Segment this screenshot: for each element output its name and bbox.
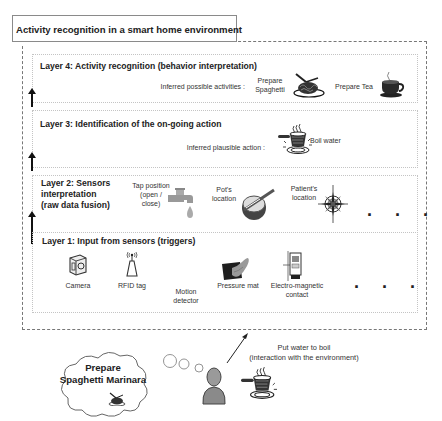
layer-1-more-ellipsis: . . . bbox=[354, 277, 424, 287]
rfid-tag-icon bbox=[124, 250, 140, 278]
layer-4-up-arrow bbox=[31, 93, 33, 107]
interaction-line: (interaction with the environment) bbox=[238, 353, 370, 363]
sensor-pressure-mat: Pressure mat bbox=[212, 281, 264, 290]
activity-prepare-tea: Prepare Tea bbox=[335, 82, 373, 91]
layer-4-title: Layer 4: Activity recognition (behavior … bbox=[40, 61, 257, 71]
layer-2-title-line: interpretation bbox=[41, 189, 110, 200]
interaction-text: Put water to boil (interaction with the … bbox=[238, 343, 370, 363]
label-line: Electro-magnetic bbox=[264, 281, 330, 290]
sensor-motion-detector: Motion detector bbox=[166, 287, 206, 305]
layer-3-title: Layer 3: Identification of the on-going … bbox=[40, 119, 221, 129]
diagram-title: Activity recognition in a smart home env… bbox=[12, 15, 237, 42]
label-line: detector bbox=[166, 296, 206, 305]
activity-label-line: Prepare bbox=[248, 76, 292, 85]
boiling-pot-small-icon bbox=[241, 366, 277, 400]
sensor-pot-location: Pot's location bbox=[206, 185, 242, 203]
layer-2-title: Layer 2: Sensors interpretation (raw dat… bbox=[41, 178, 110, 211]
sensor-rfid-tag: RFID tag bbox=[110, 281, 154, 290]
label-line: Pot's bbox=[206, 185, 242, 194]
thought-line: Spaghetti Marinara bbox=[56, 374, 150, 386]
thought-bubbles bbox=[162, 353, 206, 375]
label-line: location bbox=[206, 194, 242, 203]
layer-2-title-line: Layer 2: Sensors bbox=[41, 178, 110, 189]
spaghetti-plate-icon bbox=[292, 70, 326, 98]
compass-icon bbox=[318, 183, 348, 225]
layer-3-up-arrow bbox=[31, 157, 33, 171]
layer-1-title: Layer 1: Input from sensors (triggers) bbox=[42, 236, 195, 246]
spaghetti-small-icon bbox=[108, 392, 126, 406]
activity-label-line: Spaghetti bbox=[248, 85, 292, 94]
layer-3-inferred-label: Inferred plausible action : bbox=[160, 143, 265, 152]
label-line: contact bbox=[264, 290, 330, 299]
boiling-pot-icon bbox=[278, 123, 312, 155]
electromagnetic-contact-icon bbox=[283, 251, 303, 281]
thought-line: Prepare bbox=[56, 362, 150, 374]
activity-prepare-spaghetti: Prepare Spaghetti bbox=[248, 76, 292, 94]
layer-2-more-ellipsis: . . . bbox=[367, 205, 437, 215]
pot-location-icon bbox=[240, 188, 276, 222]
tea-cup-icon bbox=[379, 70, 405, 98]
person-icon bbox=[202, 366, 226, 406]
camera-icon bbox=[68, 254, 88, 276]
sensor-camera: Camera bbox=[54, 281, 102, 290]
label-line: Motion bbox=[166, 287, 206, 296]
sensor-electromagnetic-contact: Electro-magnetic contact bbox=[264, 281, 330, 299]
action-boil-water: Boil water bbox=[310, 136, 341, 145]
thought-text: Prepare Spaghetti Marinara bbox=[56, 362, 150, 386]
pressure-mat-icon bbox=[222, 258, 252, 280]
layer-2-title-line: (raw data fusion) bbox=[41, 200, 110, 211]
interaction-line: Put water to boil bbox=[238, 343, 370, 353]
layer-4-inferred-label: Inferred possible activities : bbox=[150, 82, 245, 91]
tap-icon bbox=[168, 187, 196, 221]
